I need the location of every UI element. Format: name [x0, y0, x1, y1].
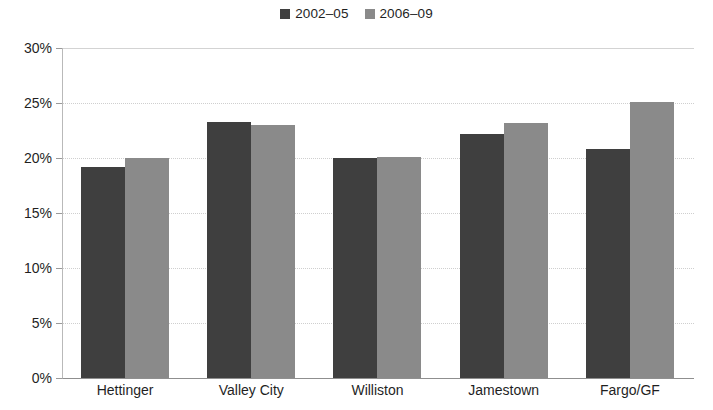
legend-swatch-series-2	[365, 9, 375, 19]
y-axis-label-25: 25%	[24, 95, 52, 111]
chart-legend: 2002–05 2006–09	[0, 6, 713, 21]
x-axis-label-jamestown: Jamestown	[468, 382, 539, 398]
bar-groups	[62, 48, 693, 378]
y-axis-label-10: 10%	[24, 260, 52, 276]
bar-2-valley-city	[251, 125, 295, 378]
bar-1-williston	[333, 158, 377, 378]
bar-group-williston	[314, 48, 440, 378]
legend-label-series-2: 2006–09	[380, 6, 433, 21]
legend-item-2002-05: 2002–05	[280, 6, 348, 21]
bar-1-fargo-gf	[586, 149, 630, 378]
legend-label-series-1: 2002–05	[295, 6, 348, 21]
bar-group-hettinger	[62, 48, 188, 378]
bar-2-williston	[377, 157, 421, 378]
y-axis-label-15: 15%	[24, 205, 52, 221]
bar-2-jamestown	[504, 123, 548, 378]
y-axis-label-20: 20%	[24, 150, 52, 166]
legend-item-2006-09: 2006–09	[365, 6, 433, 21]
bar-1-valley-city	[207, 122, 251, 378]
bar-chart: 2002–05 2006–09 0%5%10%15%20%25%30% Hett…	[0, 0, 713, 410]
bar-2-fargo-gf	[630, 102, 674, 378]
y-axis-label-30: 30%	[24, 40, 52, 56]
x-axis-label-williston: Williston	[351, 382, 403, 398]
legend-swatch-series-1	[280, 9, 290, 19]
x-axis-label-fargo-gf: Fargo/GF	[600, 382, 660, 398]
bar-1-jamestown	[460, 134, 504, 378]
bar-group-jamestown	[441, 48, 567, 378]
x-axis-label-hettinger: Hettinger	[97, 382, 154, 398]
y-axis-label-0: 0%	[32, 370, 52, 386]
bar-2-hettinger	[125, 158, 169, 378]
bar-group-fargo-gf	[567, 48, 693, 378]
bar-group-valley-city	[188, 48, 314, 378]
x-axis-label-valley-city: Valley City	[219, 382, 284, 398]
x-axis: HettingerValley CityWillistonJamestownFa…	[62, 382, 693, 410]
bar-1-hettinger	[81, 167, 125, 378]
y-axis: 0%5%10%15%20%25%30%	[0, 0, 62, 410]
y-axis-label-5: 5%	[32, 315, 52, 331]
